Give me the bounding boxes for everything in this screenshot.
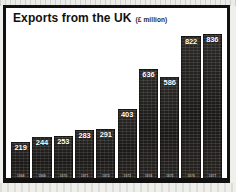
bar-value-label: 586 bbox=[164, 79, 176, 87]
scan-noise-bottom bbox=[0, 183, 236, 192]
chart-bar[interactable]: 4031973 bbox=[118, 109, 137, 180]
bar-value-label: 291 bbox=[100, 131, 112, 139]
bar-slot: 2191968 bbox=[11, 26, 30, 180]
chart-baseline-axis bbox=[6, 178, 227, 180]
bar-slot: 2911972 bbox=[96, 26, 115, 180]
chart-bar[interactable]: 8221976 bbox=[181, 36, 200, 180]
bar-value-label: 244 bbox=[36, 139, 48, 147]
bar-slot: 4031973 bbox=[118, 26, 137, 180]
bar-value-label: 836 bbox=[206, 36, 218, 44]
chart-figure-frame: Exports from the UK (£ million) 21919682… bbox=[3, 5, 230, 183]
chart-bar[interactable]: 5861975 bbox=[160, 77, 179, 180]
bar-value-label: 636 bbox=[142, 71, 154, 79]
chart-bar[interactable]: 2531970 bbox=[54, 136, 73, 180]
bar-slot: 2531970 bbox=[54, 26, 73, 180]
chart-plot-area: 2191968244196925319702831971291197240319… bbox=[6, 26, 227, 180]
bar-slot: 6361974 bbox=[139, 26, 158, 180]
bar-value-label: 403 bbox=[121, 111, 133, 119]
bar-value-label: 219 bbox=[15, 144, 27, 152]
bar-slot: 8361977 bbox=[203, 26, 222, 180]
chart-bar[interactable]: 2911972 bbox=[96, 129, 115, 180]
bar-slot: 2441969 bbox=[32, 26, 51, 180]
bar-value-label: 253 bbox=[57, 138, 69, 146]
chart-title-row: Exports from the UK (£ million) bbox=[13, 12, 167, 26]
bar-value-label: 283 bbox=[78, 132, 90, 140]
page-background: Exports from the UK (£ million) 21919682… bbox=[0, 0, 236, 192]
chart-bar[interactable]: 2831971 bbox=[75, 130, 94, 180]
chart-bar[interactable]: 6361974 bbox=[139, 69, 158, 180]
chart-bar[interactable]: 2191968 bbox=[11, 142, 30, 180]
bar-value-label: 822 bbox=[185, 38, 197, 46]
chart-bar[interactable]: 2441969 bbox=[32, 137, 51, 180]
chart-units-subtitle: (£ million) bbox=[136, 13, 168, 26]
chart-title: Exports from the UK bbox=[13, 12, 132, 25]
chart-bar[interactable]: 8361977 bbox=[203, 34, 222, 180]
bar-slot: 2831971 bbox=[75, 26, 94, 180]
bar-slot: 8221976 bbox=[181, 26, 200, 180]
bar-slot: 5861975 bbox=[160, 26, 179, 180]
